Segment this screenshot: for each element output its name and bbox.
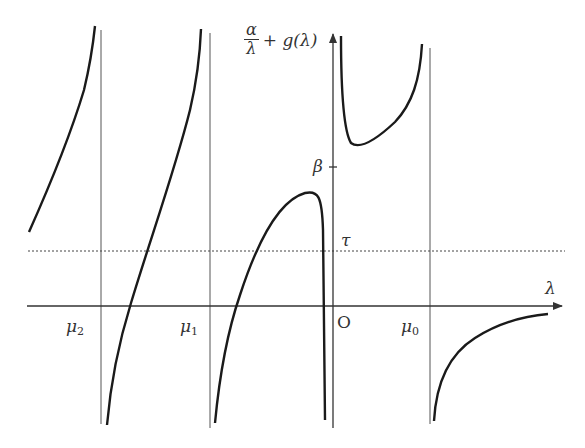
mu2-label: μ2 [66, 318, 84, 337]
y-label-rest: + g(λ) [263, 30, 318, 50]
mu0-label: μ0 [401, 318, 419, 337]
curve-branch-2 [107, 29, 201, 425]
mu2-index: 2 [77, 325, 84, 338]
mu0-symbol: μ [401, 316, 412, 336]
y-axis-label: α λ + g(λ) [244, 22, 317, 57]
function-graph [0, 0, 585, 448]
beta-label: β [313, 158, 323, 175]
curve-branch-4 [341, 36, 422, 145]
mu1-index: 1 [191, 325, 198, 338]
curve-branch-5 [434, 314, 548, 421]
mu1-symbol: μ [180, 316, 191, 336]
x-axis-label: λ [545, 280, 556, 297]
mu2-symbol: μ [66, 316, 77, 336]
y-label-denominator: λ [246, 40, 256, 57]
curve-branch-1 [29, 26, 95, 232]
mu0-index: 0 [412, 325, 419, 338]
curve-branch-3 [215, 192, 325, 423]
origin-label: O [337, 314, 351, 331]
tau-label: τ [341, 232, 350, 249]
y-label-numerator: α [244, 22, 259, 40]
mu1-label: μ1 [180, 318, 198, 337]
